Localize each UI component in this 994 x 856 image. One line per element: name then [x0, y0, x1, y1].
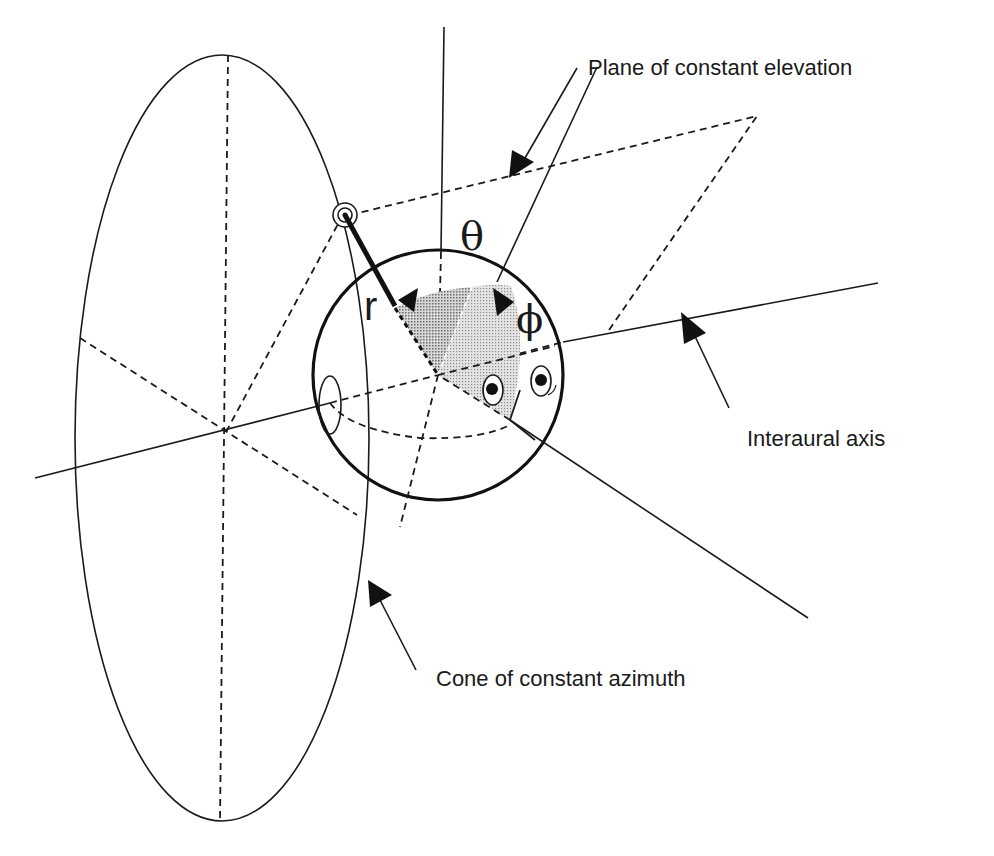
phi-label: ϕ: [516, 296, 543, 342]
cone-pointer-arrow: [368, 580, 416, 670]
elevation-plane: [350, 67, 757, 330]
interaural-label: Interaural axis: [747, 426, 885, 451]
head-sphere-icon: [313, 250, 563, 527]
interaural-pointer-arrow: [681, 312, 729, 408]
cone-label: Cone of constant azimuth: [436, 666, 685, 691]
plane-label: Plane of constant elevation: [588, 55, 852, 80]
theta-label: θ: [460, 213, 484, 259]
plane-pointer-arrow: [509, 68, 577, 178]
azimuth-cone: [75, 55, 369, 822]
coordinate-diagram: Plane of constant elevation Interaural a…: [0, 0, 994, 856]
r-label: r: [364, 284, 377, 328]
